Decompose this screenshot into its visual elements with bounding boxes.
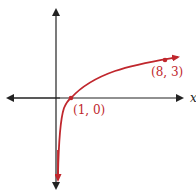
point-label-1-0: (1, 0) [73, 103, 105, 117]
chart: (1, 0) (8, 3) x [0, 0, 196, 192]
point-8-3 [163, 58, 168, 63]
x-axis-label: x [190, 91, 196, 105]
point-1-0 [69, 96, 74, 101]
point-label-8-3: (8, 3) [151, 65, 183, 79]
